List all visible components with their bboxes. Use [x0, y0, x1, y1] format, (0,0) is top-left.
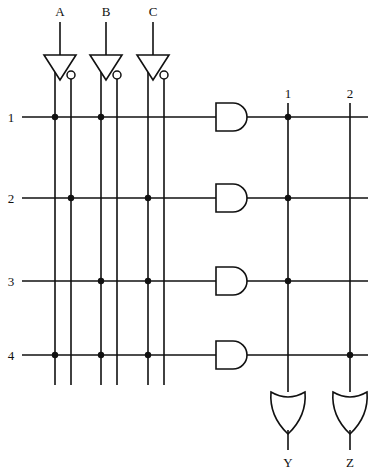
and-connection-dot [98, 114, 104, 120]
and-gate-row-2 [216, 184, 247, 212]
input-group-b [90, 22, 122, 385]
or-gate-z [333, 392, 367, 450]
output-column-label-2: 2 [347, 86, 354, 101]
input-group-a [44, 22, 76, 385]
and-connection-dot [145, 352, 151, 358]
and-connection-dot [52, 352, 58, 358]
inverter-bubble-b [113, 71, 121, 79]
product-row-label-2: 2 [8, 191, 15, 206]
logic-diagram: A B C 1 2 3 4 1 2 Y Z [0, 0, 387, 474]
inverter-bubble-c [160, 71, 168, 79]
input-group-c [137, 22, 169, 385]
and-gate-row-1 [216, 103, 247, 131]
and-gate-row-3 [216, 267, 247, 295]
and-connection-dot [145, 278, 151, 284]
product-row-label-3: 3 [8, 274, 15, 289]
input-label-c: C [149, 4, 158, 19]
input-label-a: A [55, 4, 65, 19]
or-connection-dot [347, 352, 353, 358]
and-connection-dot [52, 114, 58, 120]
or-connection-dot [285, 114, 291, 120]
output-label-y: Y [283, 455, 293, 470]
pla-diagram-canvas: A B C 1 2 3 4 1 2 Y Z [0, 0, 387, 474]
product-row-label-4: 4 [8, 348, 15, 363]
input-label-b: B [102, 4, 111, 19]
or-gate-y [271, 392, 305, 450]
and-connection-dot [68, 195, 74, 201]
or-connection-dot [285, 195, 291, 201]
product-row-label-1: 1 [8, 110, 15, 125]
or-connection-dot [285, 278, 291, 284]
output-label-z: Z [346, 455, 354, 470]
and-gate-row-4 [216, 341, 247, 369]
output-column-label-1: 1 [285, 86, 292, 101]
inverter-bubble-a [67, 71, 75, 79]
and-connection-dot [145, 195, 151, 201]
and-connection-dot [98, 278, 104, 284]
and-connection-dot [98, 352, 104, 358]
